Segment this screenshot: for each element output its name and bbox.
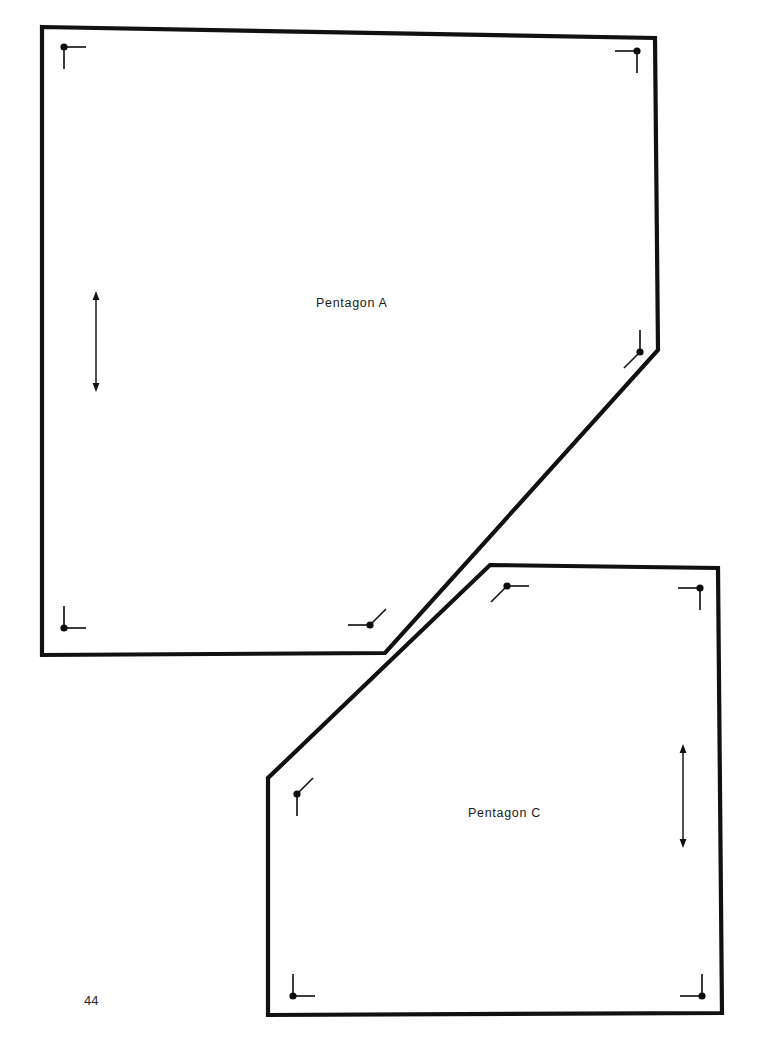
pentagon-c-top-left-dot [503, 582, 510, 589]
worksheet-page: Pentagon A Pentagon C 44 [0, 0, 775, 1061]
pentagon-a-label: Pentagon A [316, 296, 388, 310]
pentagon-c-bottom-right-dot [698, 992, 705, 999]
pentagon-diagram-canvas [0, 0, 775, 1061]
pentagon-c-left-upper-dot [293, 790, 300, 797]
pentagon-a-top-left-dot [60, 43, 67, 50]
pentagon-c-top-right-dot [696, 584, 703, 591]
pentagon-a-outline [42, 27, 658, 655]
pentagon-a-bottom-left-dot [60, 624, 67, 631]
pentagon-a-right-lower-dot [636, 348, 643, 355]
pentagon-a-top-right-dot [633, 47, 640, 54]
page-number: 44 [84, 993, 98, 1008]
pentagon-a-bottom-right-dot [366, 621, 373, 628]
pentagon-c-label: Pentagon C [468, 806, 541, 820]
shapes-group [42, 27, 722, 1015]
pentagon-c-bottom-left-dot [289, 992, 296, 999]
